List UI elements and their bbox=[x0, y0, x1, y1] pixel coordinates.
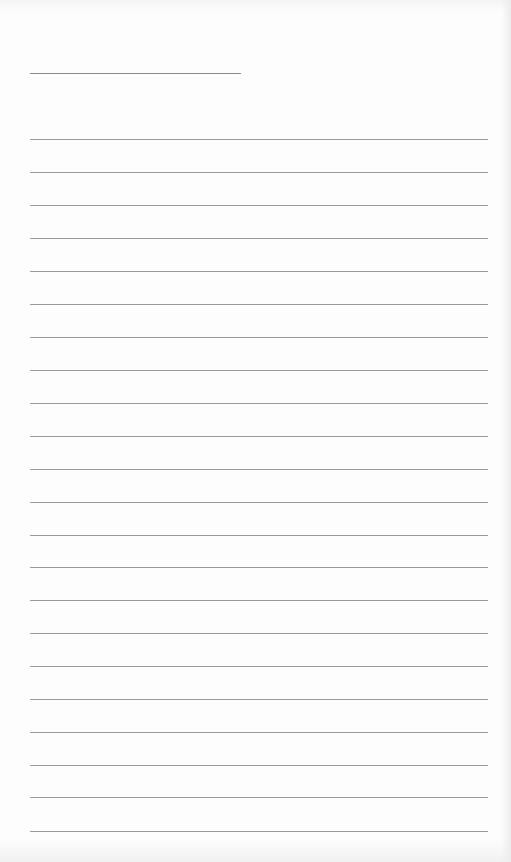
page-edge-shadow bbox=[501, 0, 511, 862]
ruled-line bbox=[30, 205, 488, 206]
notepad-page bbox=[0, 0, 511, 862]
ruled-line bbox=[30, 797, 488, 798]
ruled-line bbox=[30, 600, 488, 601]
ruled-line bbox=[30, 765, 488, 766]
ruled-line bbox=[30, 699, 488, 700]
ruled-line bbox=[30, 304, 488, 305]
ruled-line bbox=[30, 831, 488, 832]
ruled-line bbox=[30, 271, 488, 272]
ruled-line bbox=[30, 403, 488, 404]
ruled-line bbox=[30, 502, 488, 503]
ruled-line bbox=[30, 139, 488, 140]
ruled-line bbox=[30, 535, 488, 536]
ruled-line bbox=[30, 469, 488, 470]
ruled-line bbox=[30, 732, 488, 733]
ruled-line bbox=[30, 436, 488, 437]
header-write-line bbox=[30, 73, 241, 74]
ruled-line bbox=[30, 337, 488, 338]
ruled-line bbox=[30, 172, 488, 173]
ruled-line bbox=[30, 238, 488, 239]
ruled-line bbox=[30, 370, 488, 371]
ruled-line bbox=[30, 633, 488, 634]
ruled-line bbox=[30, 666, 488, 667]
ruled-line bbox=[30, 567, 488, 568]
